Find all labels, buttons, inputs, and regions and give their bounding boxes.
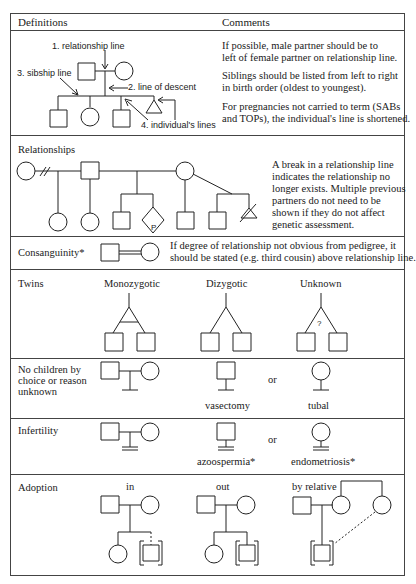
sibling-connector (341, 481, 382, 496)
female-circle-icon (141, 496, 159, 514)
male-square-icon (297, 333, 315, 351)
no-children-diagram (101, 362, 330, 390)
male-square-icon (233, 333, 251, 351)
adoption-by-relative-diagram (293, 481, 391, 565)
female-endometriosis-circle-icon (312, 423, 330, 441)
male-square-icon (209, 212, 226, 229)
relationships-diagram (17, 162, 257, 233)
relative-female-circle-icon (373, 496, 391, 514)
pregnancy-loss-triangle-icon (146, 100, 162, 113)
male-square-icon (113, 212, 130, 229)
male-square-icon (113, 110, 130, 127)
twins-unknown (297, 293, 347, 351)
female-circle-icon (17, 162, 35, 180)
male-square-icon (329, 333, 347, 351)
female-tubal-circle-icon (312, 362, 330, 380)
adopted-out-male-square-icon (239, 545, 255, 561)
twins-dizygotic (201, 293, 251, 351)
male-square-icon (81, 162, 99, 179)
male-square-icon (201, 333, 219, 351)
pregnancy-loss-triangle-icon (241, 208, 257, 218)
definitions-diagram (50, 50, 175, 127)
arrow-sibship-line (60, 78, 77, 94)
female-circle-icon (141, 423, 159, 441)
male-square-icon (293, 497, 311, 514)
female-circle-icon (49, 213, 67, 231)
female-circle-icon (81, 108, 99, 126)
male-square-icon (50, 110, 67, 127)
male-square-icon (137, 333, 155, 351)
pregnancy-diamond-icon (142, 207, 164, 233)
male-square-icon (101, 496, 119, 513)
male-square-icon (101, 362, 119, 379)
male-square-icon (197, 496, 215, 513)
female-circle-icon (205, 545, 223, 563)
female-circle-icon (237, 496, 255, 514)
male-azoospermia-square-icon (217, 423, 235, 440)
male-vasectomy-square-icon (217, 362, 235, 379)
adopted-dashed-line (334, 512, 375, 544)
arrow-individuals-line-triangle (159, 100, 175, 120)
male-square-icon (101, 423, 119, 440)
male-square-icon (105, 333, 123, 351)
consanguinity-diagram (101, 243, 159, 261)
adopted-male-square-icon (314, 545, 330, 561)
female-circle-icon (141, 362, 159, 380)
male-square-icon (177, 212, 194, 229)
female-circle-icon (109, 545, 127, 563)
adopted-male-square-icon (143, 545, 159, 561)
adoption-out-diagram (197, 496, 258, 565)
adoption-in-diagram (101, 496, 162, 565)
female-circle-icon (176, 162, 194, 180)
female-circle-icon (141, 243, 159, 261)
male-square-icon (101, 244, 119, 261)
female-circle-icon (81, 213, 99, 231)
female-circle-icon (115, 62, 133, 80)
female-circle-icon (332, 496, 350, 514)
male-square-icon (78, 63, 95, 80)
infertility-diagram (101, 423, 330, 450)
twins-monozygotic (105, 293, 155, 351)
